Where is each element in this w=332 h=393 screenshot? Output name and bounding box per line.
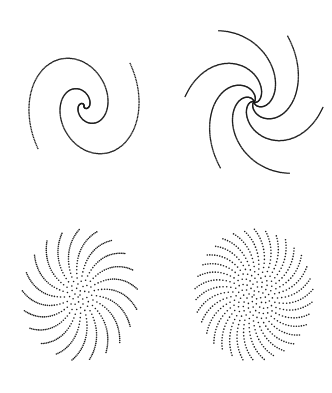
spiral-panel-bottom-right xyxy=(194,229,313,361)
spiral-panel-bottom-left xyxy=(22,229,138,361)
spiral-figure-svg xyxy=(0,0,332,393)
spiral-panel-top-left xyxy=(28,58,140,155)
spiral-figure xyxy=(0,0,332,393)
spiral-panel-top-right xyxy=(184,30,323,174)
